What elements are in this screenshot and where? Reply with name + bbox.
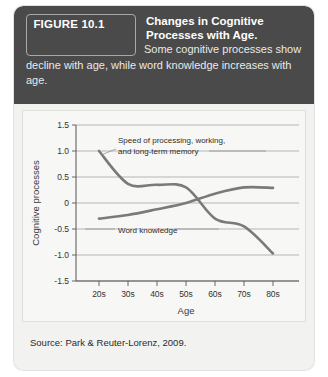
speed-annotation-pointer [101, 149, 116, 155]
x-tick-label-70s: 70s [237, 289, 251, 299]
figure-number-label: FIGURE 10.1 [14, 18, 124, 30]
x-tick-label-40s: 40s [150, 289, 164, 299]
x-tick-label-20s: 20s [92, 289, 106, 299]
figure-caption: Some cognitive processes show decline wi… [26, 42, 306, 89]
y-axis-title: Cognitive processes [30, 160, 41, 246]
figure-header-band: FIGURE 10.1 Changes in Cognitive Process… [14, 6, 314, 104]
x-tick-label-50s: 50s [179, 289, 193, 299]
x-tick-label-80s: 80s [266, 289, 280, 299]
y-tick-label-6: -1.0 [54, 250, 69, 260]
figure-card: FIGURE 10.1 Changes in Cognitive Process… [14, 6, 314, 370]
speed-annotation-line2: and long-term memory [118, 147, 198, 156]
word-knowledge-annotation-label: Word knowledge [118, 226, 178, 235]
speed-annotation-group: Speed of processing, working, and long-t… [101, 136, 266, 156]
x-tick-label-60s: 60s [208, 289, 222, 299]
speed-annotation-line1: Speed of processing, working, [118, 136, 225, 145]
y-tick-label-2: 1.0 [57, 146, 69, 156]
x-tick-label-30s: 30s [121, 289, 135, 299]
y-tick-label-5: -0.5 [54, 224, 69, 234]
x-axis [76, 281, 299, 286]
y-axis [72, 125, 76, 281]
source-note: Source: Park & Reuter-Lorenz, 2009. [30, 337, 186, 348]
figure-title: Changes in Cognitive Processes with Age. [146, 15, 306, 42]
chart-panel: 1.5 1.0 0.5 0 -0.5 -1.0 -1.5 Cognitive p… [22, 110, 306, 322]
y-tick-label-4: 0 [64, 198, 69, 208]
x-axis-title: Age [178, 305, 195, 316]
line-chart: 1.5 1.0 0.5 0 -0.5 -1.0 -1.5 Cognitive p… [23, 111, 305, 321]
y-tick-label-7: -1.5 [54, 276, 69, 286]
word-knowledge-annotation-group: Word knowledge [85, 226, 219, 235]
y-tick-label-3: 0.5 [57, 172, 69, 182]
y-tick-label-1: 1.5 [57, 120, 69, 130]
